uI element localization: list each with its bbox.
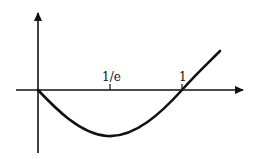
- tick-label-one-over-e: 1/e: [102, 70, 121, 84]
- function-curve: [38, 51, 220, 136]
- tick-label-one: 1: [179, 70, 187, 84]
- function-graph: 1/e 1: [0, 0, 257, 159]
